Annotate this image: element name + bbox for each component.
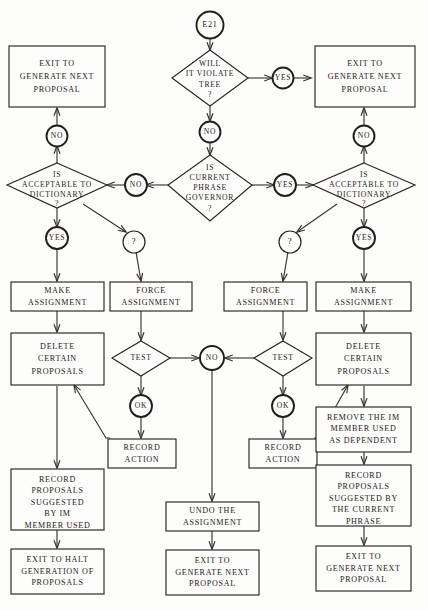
delete-l-line-2: PROPOSALS: [31, 367, 83, 376]
remove-im-line-0: REMOVE THE IM: [327, 413, 400, 422]
node-violate-tree[interactable]: WILL IT VIOLATE TREE ?: [172, 50, 248, 106]
gov-line-0: IS: [206, 163, 214, 172]
dict-left-line-3: ?: [55, 199, 59, 208]
node-make-assignment-left[interactable]: MAKE ASSIGNMENT: [11, 282, 104, 311]
undo-line-1: ASSIGNMENT: [183, 518, 242, 527]
dict-left-line-1: ACCEPTABLE TO: [22, 180, 92, 189]
record-prop-r-line-4: PHRASE: [346, 517, 381, 526]
node-exit-generate-top-left[interactable]: EXIT TO GENERATE NEXT PROPOSAL: [9, 46, 105, 107]
exit-halt-line-1: GENERATION OF: [21, 567, 94, 576]
node-record-action-right[interactable]: RECORD ACTION: [249, 439, 317, 468]
delete-l-line-1: CERTAIN: [38, 354, 77, 363]
node-exit-generate-top-right[interactable]: EXIT TO GENERATE NEXT PROPOSAL: [315, 46, 415, 107]
exit-br-line-1: GENERATE NEXT: [326, 564, 401, 573]
node-make-assignment-right[interactable]: MAKE ASSIGNMENT: [316, 282, 411, 311]
undo-line-0: UNDO THE: [189, 506, 236, 515]
record-action-r-line-1: ACTION: [266, 455, 301, 464]
right-no-top-label: NO: [358, 131, 370, 140]
node-left-no-top[interactable]: NO: [47, 126, 68, 147]
exit-tl-line-2: PROPOSAL: [34, 85, 81, 94]
violate-tree-line-2: TREE: [199, 80, 221, 89]
dict-right-question-label: ?: [288, 236, 293, 246]
node-dict-right-yes[interactable]: YES: [353, 227, 375, 249]
node-test-left[interactable]: TEST: [112, 341, 170, 376]
record-prop-l-line-3: BY IM: [44, 509, 70, 518]
record-action-l-line-1: ACTION: [125, 455, 160, 464]
node-force-assignment-right[interactable]: FORCE ASSIGNMENT: [224, 282, 307, 311]
node-right-no-top[interactable]: NO: [354, 126, 375, 147]
node-is-current-phrase-governor[interactable]: IS CURRENT PHRASE GOVERNOR ?: [168, 155, 252, 221]
violate-tree-line-0: WILL: [199, 59, 221, 68]
test-no-label: NO: [206, 353, 218, 362]
exit-tr-line-2: PROPOSAL: [342, 85, 389, 94]
dict-right-line-3: ?: [362, 199, 366, 208]
exit-tl-line-1: GENERATE NEXT: [20, 72, 95, 81]
delete-r-line-1: CERTAIN: [344, 354, 383, 363]
record-prop-l-line-1: PROPOSALS: [31, 486, 83, 495]
edge-dict-left-q: [83, 204, 126, 232]
node-dict-left-question[interactable]: ?: [123, 231, 145, 253]
force-assign-l-line-1: ASSIGNMENT: [121, 298, 180, 307]
edge-dict-right-q: [297, 204, 337, 232]
node-exit-generate-bottom-right[interactable]: EXIT TO GENERATE NEXT PROPOSAL: [316, 546, 411, 591]
gov-line-1: CURRENT: [190, 173, 231, 182]
delete-r-line-2: PROPOSALS: [337, 367, 389, 376]
violate-tree-line-3: ?: [208, 90, 212, 99]
force-assign-r-line-1: ASSIGNMENT: [236, 298, 295, 307]
governor-yes-label: YES: [277, 180, 293, 189]
exit-halt-line-2: PROPOSALS: [31, 578, 83, 587]
exit-br-line-2: PROPOSAL: [340, 575, 387, 584]
node-dict-left-yes[interactable]: YES: [46, 227, 68, 249]
record-action-r-line-0: RECORD: [264, 443, 301, 452]
node-undo-assignment[interactable]: UNDO THE ASSIGNMENT: [166, 502, 259, 531]
node-force-assignment-left[interactable]: FORCE ASSIGNMENT: [110, 282, 192, 311]
node-start[interactable]: E21: [197, 12, 224, 39]
node-test-right[interactable]: TEST: [254, 341, 312, 376]
exit-tl-line-0: EXIT TO: [39, 59, 75, 68]
node-dict-right-question[interactable]: ?: [279, 231, 301, 253]
make-assign-r-line-1: ASSIGNMENT: [334, 298, 393, 307]
node-tree-no[interactable]: NO: [200, 122, 221, 143]
tree-no-label: NO: [204, 127, 216, 136]
record-prop-l-line-2: SUGGESTED: [31, 498, 85, 507]
tree-yes-label: YES: [275, 73, 291, 82]
record-prop-r-line-2: SUGGESTED BY: [329, 494, 398, 503]
exit-halt-line-0: EXIT TO HALT: [26, 555, 88, 564]
node-exit-generate-bottom-middle[interactable]: EXIT TO GENERATE NEXT PROPOSAL: [166, 550, 259, 595]
exit-br-line-0: EXIT TO: [346, 552, 382, 561]
node-governor-yes[interactable]: YES: [274, 174, 296, 196]
record-prop-r-line-3: THE CURRENT: [332, 505, 395, 514]
node-ok-left[interactable]: OK: [130, 395, 152, 417]
exit-bm-line-1: GENERATE NEXT: [175, 568, 250, 577]
node-test-no[interactable]: NO: [200, 346, 224, 370]
node-record-proposals-left[interactable]: RECORD PROPOSALS SUGGESTED BY IM MEMBER …: [11, 469, 104, 530]
make-assign-r-line-0: MAKE: [350, 286, 377, 295]
force-assign-r-line-0: FORCE: [251, 286, 281, 295]
gov-line-2: PHRASE: [193, 183, 227, 192]
dict-right-line-0: IS: [360, 170, 368, 179]
ok-right-label: OK: [277, 401, 289, 410]
node-tree-yes[interactable]: YES: [273, 68, 294, 89]
make-assign-l-line-1: ASSIGNMENT: [28, 298, 87, 307]
node-dictionary-right[interactable]: IS ACCEPTABLE TO DICTIONARY ?: [313, 163, 415, 208]
node-ok-right[interactable]: OK: [272, 395, 294, 417]
node-record-proposals-right[interactable]: RECORD PROPOSALS SUGGESTED BY THE CURREN…: [316, 465, 411, 526]
violate-tree-line-1: IT VIOLATE: [186, 69, 234, 78]
record-action-l-line-0: RECORD: [123, 443, 160, 452]
node-exit-halt-generation[interactable]: EXIT TO HALT GENERATION OF PROPOSALS: [11, 549, 104, 594]
node-delete-proposals-left[interactable]: DELETE CERTAIN PROPOSALS: [11, 333, 104, 385]
node-record-action-left[interactable]: RECORD ACTION: [108, 439, 176, 468]
record-prop-r-line-0: RECORD: [345, 471, 382, 480]
edge-q-to-force-assign-r: [283, 252, 288, 281]
node-governor-no[interactable]: NO: [125, 174, 147, 196]
left-no-top-label: NO: [51, 131, 63, 140]
dict-left-line-0: IS: [53, 170, 61, 179]
delete-l-line-0: DELETE: [40, 342, 75, 351]
node-remove-im-member[interactable]: REMOVE THE IM MEMBER USED AS DEPENDENT: [316, 407, 411, 452]
exit-bm-line-0: EXIT TO: [195, 556, 231, 565]
flowchart-svg: E21 WILL IT VIOLATE TREE ? YES NO EXIT T…: [0, 0, 428, 610]
remove-im-line-1: MEMBER USED: [331, 424, 397, 433]
node-dictionary-left[interactable]: IS ACCEPTABLE TO DICTIONARY ?: [7, 163, 107, 208]
record-prop-l-line-0: RECORD: [39, 475, 76, 484]
node-delete-proposals-right[interactable]: DELETE CERTAIN PROPOSALS: [316, 333, 411, 385]
